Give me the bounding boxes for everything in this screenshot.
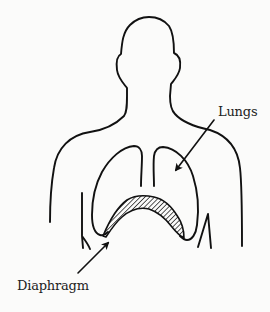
diaphragm [103, 196, 184, 238]
lungs-label: Lungs [218, 104, 257, 119]
body-outline [50, 17, 242, 246]
right-inner-arm [198, 214, 211, 248]
anatomy-diagram [0, 0, 270, 312]
lungs-pointer-arrow [176, 120, 214, 170]
left-inner-arm [82, 193, 90, 249]
diaphragm-label: Diaphragm [17, 278, 89, 293]
